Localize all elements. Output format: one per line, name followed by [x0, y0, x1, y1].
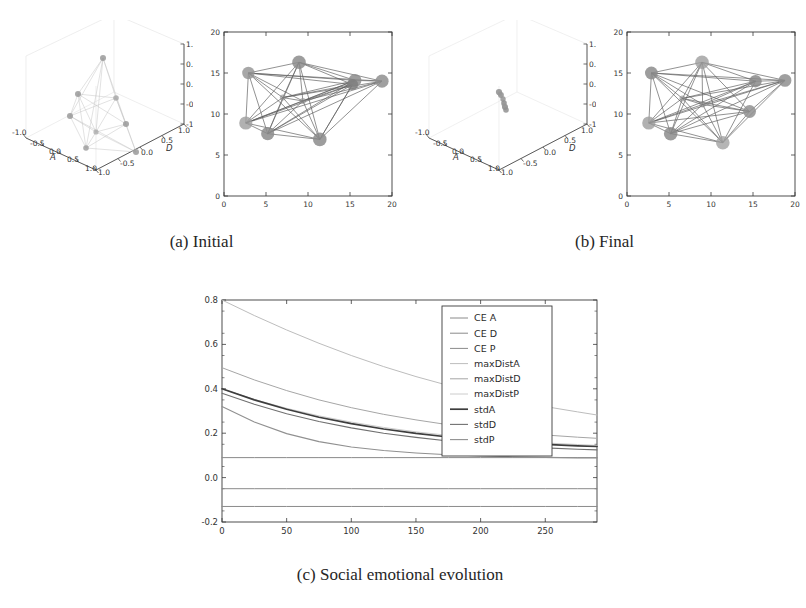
- axes3d-x-tick-labels: -1.0 -0.5 0.0 0.5 1.0: [415, 128, 500, 173]
- svg-text:-1.0: -1.0: [589, 120, 596, 129]
- svg-text:10: 10: [613, 110, 623, 119]
- network-node: [239, 116, 252, 129]
- svg-text:0.5: 0.5: [186, 60, 193, 69]
- svg-text:20: 20: [790, 200, 800, 209]
- scatter3d-initial-edges: [70, 58, 136, 152]
- svg-text:-0.5: -0.5: [433, 139, 448, 148]
- svg-text:20: 20: [387, 200, 397, 209]
- svg-text:-0.5: -0.5: [120, 159, 135, 168]
- network-node: [313, 133, 327, 147]
- legend-label: maxDistA: [474, 358, 520, 369]
- network-node: [679, 95, 685, 101]
- network-x-tick-labels: 0 5 10 15 20: [625, 200, 800, 209]
- svg-text:0.0: 0.0: [141, 148, 153, 157]
- axes3d-x-axis-label: A: [452, 152, 459, 162]
- svg-text:1.0: 1.0: [85, 164, 97, 173]
- svg-text:1.0: 1.0: [589, 40, 596, 49]
- svg-text:0.6: 0.6: [204, 339, 218, 349]
- axes3d-y-tick-labels: 1.0 -0.5 0.0 0.5 1.0: [501, 126, 593, 177]
- svg-text:-1.0: -1.0: [415, 128, 430, 137]
- svg-text:-0.5: -0.5: [30, 139, 45, 148]
- axes3d-z-ticks: [181, 44, 185, 124]
- axes3d-y-axis-label: D: [569, 143, 576, 153]
- svg-text:0.5: 0.5: [67, 155, 79, 164]
- svg-text:15: 15: [345, 200, 355, 209]
- svg-text:200: 200: [473, 526, 489, 536]
- svg-text:0.0: 0.0: [589, 80, 596, 89]
- network-y-tick-labels: 0 5 10 15 20: [613, 28, 623, 201]
- svg-text:5: 5: [667, 200, 672, 209]
- network-plot-frame: [627, 32, 795, 196]
- svg-text:0: 0: [219, 526, 224, 536]
- svg-text:15: 15: [613, 69, 623, 78]
- svg-text:0.2: 0.2: [204, 428, 218, 438]
- network-node: [664, 127, 678, 141]
- legend-label: maxDistD: [474, 373, 521, 384]
- figure-page: -1.0 -0.5 0.0 0.5 1.0 1.0 -0.5 0.0 0.5 1…: [0, 0, 806, 608]
- svg-text:-0.5: -0.5: [186, 100, 193, 109]
- subfigure-b: -1.0 -0.5 0.0 0.5 1.0 1.0 -0.5 0.0 0.5 1…: [403, 0, 806, 260]
- legend-label: CE D: [474, 328, 497, 339]
- network-node: [242, 67, 254, 79]
- svg-text:5: 5: [264, 200, 269, 209]
- network-node: [779, 74, 792, 87]
- svg-text:0.0: 0.0: [186, 80, 193, 89]
- svg-text:-0.2: -0.2: [201, 517, 218, 527]
- scatter3d-final: -1.0 -0.5 0.0 0.5 1.0 1.0 -0.5 0.0 0.5 1…: [411, 20, 596, 210]
- network-node: [700, 102, 706, 108]
- legend-label: maxDistP: [474, 388, 519, 399]
- svg-text:1.0: 1.0: [488, 164, 500, 173]
- svg-text:-1.0: -1.0: [12, 128, 27, 137]
- scatter3d-initial: -1.0 -0.5 0.0 0.5 1.0 1.0 -0.5 0.0 0.5 1…: [8, 20, 193, 210]
- axes3d-y-tick-labels: 1.0 -0.5 0.0 0.5 1.0: [98, 126, 190, 177]
- network-node: [749, 75, 761, 87]
- evolution-y-tick-labels: -0.20.00.20.40.60.8: [201, 295, 218, 527]
- svg-text:1.0: 1.0: [98, 168, 110, 177]
- svg-text:0: 0: [625, 200, 630, 209]
- svg-text:20: 20: [613, 28, 623, 37]
- network-plot-initial: 0 5 10 15 20 0 5 10 15 20: [196, 24, 401, 214]
- network-node: [347, 79, 358, 90]
- network-plot-final-svg: 0 5 10 15 20 0 5 10 15 20: [599, 24, 804, 214]
- evolution-legend: CE ACE DCE PmaxDistAmaxDistDmaxDistPstdA…: [442, 306, 552, 456]
- evolution-x-tick-labels: 050100150200250: [219, 526, 553, 536]
- svg-text:-1.0: -1.0: [186, 120, 193, 129]
- network-plot-initial-svg: 0 5 10 15 20 0 5 10 15 20: [196, 24, 401, 214]
- network-node: [645, 67, 658, 80]
- svg-text:1.0: 1.0: [501, 168, 513, 177]
- evolution-chart-svg: 050100150200250 -0.20.00.20.40.60.8 CE A…: [190, 290, 610, 550]
- legend-label: stdD: [474, 419, 496, 430]
- svg-text:150: 150: [408, 526, 424, 536]
- evolution-chart: 050100150200250 -0.20.00.20.40.60.8 CE A…: [190, 290, 610, 550]
- network-node: [716, 136, 730, 150]
- legend-label: CE P: [474, 343, 496, 354]
- svg-text:1.0: 1.0: [186, 40, 193, 49]
- svg-text:0.5: 0.5: [589, 60, 596, 69]
- axes3d-y-axis-label: D: [166, 143, 173, 153]
- svg-text:0: 0: [222, 200, 227, 209]
- axes3d-x-tick-labels: -1.0 -0.5 0.0 0.5 1.0: [12, 128, 97, 173]
- svg-text:0: 0: [215, 192, 220, 201]
- network-x-tick-labels: 0 5 10 15 20: [222, 200, 397, 209]
- legend-label: CE A: [474, 312, 497, 323]
- svg-text:-0.5: -0.5: [523, 159, 538, 168]
- svg-text:-0.5: -0.5: [589, 100, 596, 109]
- network-plot-final: 0 5 10 15 20 0 5 10 15 20: [599, 24, 804, 214]
- axes3d-x-axis-label: A: [49, 152, 56, 162]
- legend-label: stdA: [474, 404, 496, 415]
- network-node: [292, 56, 306, 70]
- network-node: [300, 98, 306, 104]
- svg-text:10: 10: [706, 200, 716, 209]
- network-node: [743, 105, 756, 118]
- svg-text:0.4: 0.4: [204, 384, 218, 394]
- svg-text:250: 250: [537, 526, 553, 536]
- network-node: [261, 127, 274, 140]
- axes3d-z-ticks: [584, 44, 588, 124]
- scatter3d-initial-points: [67, 55, 139, 155]
- svg-text:0.5: 0.5: [470, 155, 482, 164]
- svg-text:100: 100: [343, 526, 359, 536]
- svg-text:10: 10: [210, 110, 220, 119]
- axes3d-z-tick-labels: -1.0 -0.5 0.0 0.5 1.0: [589, 40, 596, 129]
- subfigure-a: -1.0 -0.5 0.0 0.5 1.0 1.0 -0.5 0.0 0.5 1…: [0, 0, 403, 260]
- caption-subfigure-a: (a) Initial: [0, 232, 403, 252]
